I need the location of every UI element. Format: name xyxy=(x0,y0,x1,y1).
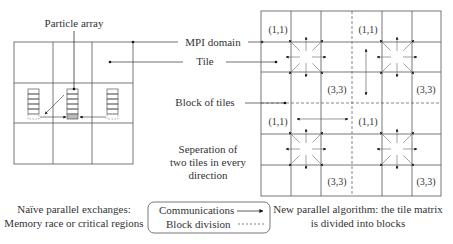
mpi-domain-label: MPI domain xyxy=(185,36,241,48)
tile-label-start: (1,1) xyxy=(268,116,287,128)
separation-label-line1: Seperation of xyxy=(179,143,238,155)
particle-array-cell xyxy=(67,99,78,104)
particle-array-label: Particle array xyxy=(45,17,104,29)
tile-matrix-border xyxy=(261,11,441,196)
tile-matrix xyxy=(261,11,441,196)
tile-label-end: (3,3) xyxy=(327,84,346,96)
callout-block-of-tiles: Block of tiles xyxy=(175,96,286,108)
naive-grid-border xyxy=(14,42,133,164)
particle-array-cell xyxy=(28,99,39,104)
tile-label-start: (1,1) xyxy=(358,116,377,128)
callout-dot xyxy=(284,102,287,105)
tile-label: Tile xyxy=(196,55,213,67)
exchange-arrow-diagonal xyxy=(45,95,64,114)
naive-caption-line2: Memory race or critical regions xyxy=(4,217,143,229)
tile-label-end: (3,3) xyxy=(416,84,435,96)
tile-label-end: (3,3) xyxy=(416,176,435,188)
new-algorithm-caption-line2: is divided into blocks xyxy=(311,217,405,229)
particle-array-cell xyxy=(107,99,118,104)
particle-array-shaded-cell xyxy=(67,114,78,119)
diagram-canvas: Particle array MPI domain Tile Block of … xyxy=(0,0,453,244)
particle-array-empty-cell xyxy=(107,114,118,119)
particle-arrays xyxy=(28,89,118,119)
new-algorithm-caption-line1: New parallel algorithm: the tile matrix xyxy=(273,203,443,215)
naive-grid xyxy=(14,42,133,164)
particle-array-cell xyxy=(107,109,118,114)
tile-label-start: (1,1) xyxy=(358,24,377,36)
particle-array-cell xyxy=(107,94,118,99)
callout-separation: Seperation of two tiles in every directi… xyxy=(170,143,247,181)
particle-array-empty-cell xyxy=(28,114,39,119)
particle-array-cell xyxy=(28,109,39,114)
block-of-tiles-label: Block of tiles xyxy=(175,96,234,108)
particle-array-cell xyxy=(67,104,78,109)
pointer-dot xyxy=(73,88,76,91)
particle-array-cell xyxy=(107,104,118,109)
particle-array-cell xyxy=(67,89,78,94)
callout-dot xyxy=(275,61,278,64)
particle-array-cell xyxy=(67,94,78,99)
tile-label-start: (1,1) xyxy=(268,24,287,36)
particle-array-cell xyxy=(67,109,78,114)
particle-array-cell xyxy=(107,89,118,94)
particle-array-cell xyxy=(28,104,39,109)
particle-array-cell xyxy=(28,94,39,99)
legend-communications-label: Communications xyxy=(159,204,234,216)
separation-label-line3: direction xyxy=(188,169,228,181)
callout-tile: Tile xyxy=(109,55,278,67)
separation-label-line2: two tiles in every xyxy=(170,156,247,168)
callout-mpi-domain: MPI domain xyxy=(132,36,264,48)
legend-block-division-label: Block division xyxy=(166,218,231,230)
legend: Communications Block division xyxy=(148,202,270,233)
naive-caption-line1: Naïve parallel exchanges: xyxy=(17,203,131,215)
tile-label-end: (3,3) xyxy=(327,176,346,188)
particle-array-cell xyxy=(28,89,39,94)
